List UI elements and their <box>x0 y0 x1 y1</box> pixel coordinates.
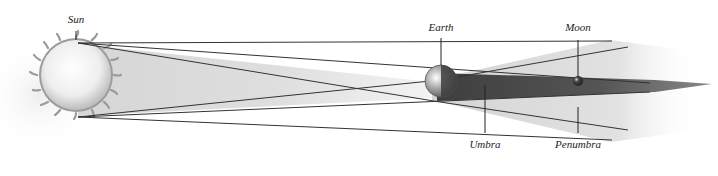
label-moon: Moon <box>565 21 591 33</box>
earth-icon <box>425 65 457 97</box>
label-penumbra: Penumbra <box>555 138 601 150</box>
label-umbra: Umbra <box>469 138 500 150</box>
eclipse-diagram: Sun Earth Moon Umbra Penumbra <box>0 0 718 176</box>
label-earth: Earth <box>428 21 453 33</box>
label-sun: Sun <box>68 13 85 25</box>
eclipse-illustration <box>0 0 718 176</box>
light-cone <box>78 44 432 116</box>
sun-icon <box>41 40 111 110</box>
moon-icon <box>573 76 583 86</box>
